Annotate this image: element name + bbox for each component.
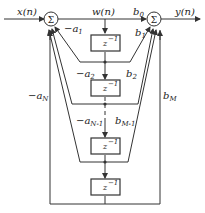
svg-text:−1: −1 bbox=[108, 35, 118, 43]
delay-block-3: z −1 bbox=[91, 138, 120, 154]
state-label: w(n) bbox=[92, 6, 115, 17]
svg-text:−1: −1 bbox=[108, 179, 118, 187]
svg-text:−1: −1 bbox=[108, 138, 118, 146]
left-sum-node: Σ bbox=[44, 12, 58, 26]
output-label: y(n) bbox=[174, 6, 195, 17]
coeff-b2: b2 bbox=[126, 68, 137, 81]
delay-block-2: z −1 bbox=[91, 80, 120, 96]
coeff-bM: bM bbox=[163, 90, 177, 103]
coeff-bM-1: bM-1 bbox=[115, 115, 135, 128]
coeff-aN: −aN bbox=[28, 90, 49, 103]
right-sum-node: Σ bbox=[147, 12, 161, 26]
delay-block-1: z −1 bbox=[91, 35, 120, 51]
svg-text:Σ: Σ bbox=[151, 15, 157, 25]
svg-text:−1: −1 bbox=[108, 80, 118, 88]
input-label: x(n) bbox=[17, 6, 37, 17]
svg-text:Σ: Σ bbox=[48, 15, 54, 25]
direct-form-ii-diagram: Σ Σ z −1 z −1 z −1 z −1 x(n) w(n) y(n) b… bbox=[0, 0, 205, 213]
coeff-b0: b0 bbox=[133, 6, 144, 19]
coeff-a1: −a1 bbox=[64, 23, 83, 36]
coeff-a2: −a2 bbox=[76, 68, 95, 81]
coeff-aN-1: −aN-1 bbox=[76, 115, 103, 128]
delay-block-4: z −1 bbox=[91, 179, 120, 195]
coeff-b1: b1 bbox=[135, 27, 146, 40]
